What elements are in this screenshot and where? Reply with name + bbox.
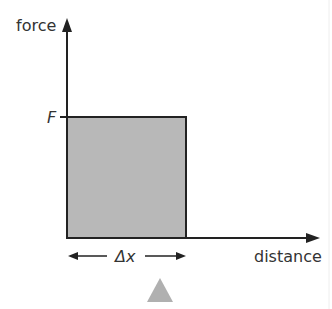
force-level-label: F xyxy=(47,108,57,127)
y-axis-arrow-icon xyxy=(62,18,72,32)
delta-x-label: Δx xyxy=(113,247,136,266)
right-arrow-icon xyxy=(176,252,186,260)
x-axis-label: distance xyxy=(254,247,322,266)
force-distance-diagram: force distance F Δx xyxy=(0,0,332,309)
y-axis-label: force xyxy=(16,16,56,35)
work-area-rectangle xyxy=(67,117,186,238)
x-axis-arrow-icon xyxy=(306,233,320,243)
triangle-marker-icon xyxy=(147,278,173,302)
left-arrow-icon xyxy=(68,252,78,260)
